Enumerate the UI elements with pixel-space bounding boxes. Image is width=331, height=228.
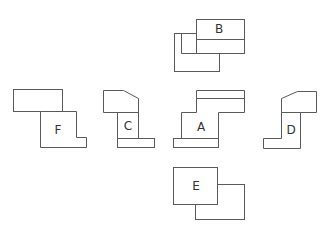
projection-diagram: B F C A D E: [0, 0, 331, 228]
view-f-upper-block: [14, 90, 63, 112]
view-d-label: D: [286, 123, 295, 137]
view-d-chamfered-top: [282, 92, 317, 113]
view-f-label: F: [55, 123, 62, 137]
view-f: F: [14, 90, 87, 148]
view-c-chamfered-top: [104, 91, 139, 113]
view-a-body: [182, 91, 245, 139]
view-b: B: [175, 20, 245, 72]
view-d: D: [264, 92, 317, 149]
view-c-base: [118, 139, 155, 148]
view-c: C: [104, 91, 155, 148]
view-a: A: [174, 91, 245, 148]
view-b-label: B: [215, 22, 223, 36]
view-f-lower-block: [41, 112, 87, 148]
view-a-label: A: [197, 120, 206, 134]
view-e: E: [174, 168, 245, 220]
view-e-label: E: [192, 179, 200, 193]
view-a-base: [174, 139, 219, 148]
view-c-label: C: [124, 119, 132, 133]
